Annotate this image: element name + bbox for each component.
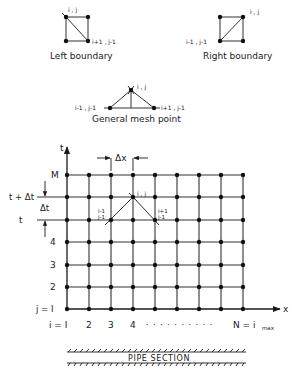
- mesh-right-label: i+1 , j-1: [161, 104, 185, 112]
- row-label-M: M: [51, 170, 59, 180]
- col-label-3: 3: [108, 320, 114, 330]
- col-label-i1: i = I: [49, 320, 67, 330]
- characteristics-mesh-diagram: i , j i+1 , j-1 Left boundary i , j i-1 …: [0, 0, 298, 379]
- grid-point-ij-label: i , j: [137, 190, 146, 198]
- grid-point-left-label-b: j-1: [97, 214, 105, 221]
- left-boundary-caption: Left boundary: [50, 51, 113, 61]
- row-label-t-plus-dt: t + Δt: [9, 192, 35, 202]
- row-label-3: 3: [50, 260, 56, 270]
- general-mesh-nodes: [108, 88, 156, 110]
- delta-x-label: Δx: [115, 153, 127, 163]
- col-label-N: N = i: [233, 320, 256, 330]
- t-axis-label: t: [60, 143, 64, 153]
- col-label-dots: · · · · · · · · · ·: [146, 321, 213, 330]
- row-label-4: 4: [50, 237, 56, 247]
- grid-point-right-label-b: j-1: [157, 214, 165, 221]
- general-mesh-caption: General mesh point: [92, 114, 181, 124]
- row-label-j1: j = I: [35, 304, 53, 314]
- mesh-left-label: i-1 , j-1: [75, 104, 96, 112]
- row-label-2: 2: [50, 282, 56, 292]
- right-node-ij-label: i , j: [250, 8, 259, 16]
- x-axis-label: x: [283, 304, 289, 314]
- right-boundary-caption: Right boundary: [203, 51, 273, 61]
- mesh-apex-label: i , j: [137, 83, 146, 91]
- delta-t-label: Δt: [40, 203, 50, 213]
- col-label-N-subscript: max: [262, 325, 275, 331]
- col-label-4: 4: [130, 320, 136, 330]
- pipe-section-label: PIPE SECTION: [128, 354, 190, 363]
- left-node-br-label: i+1 , j-1: [92, 38, 116, 46]
- right-boundary-stencil: [220, 17, 243, 41]
- row-label-t: t: [19, 215, 23, 225]
- left-node-ij-label: i , j: [68, 6, 77, 14]
- right-node-bl-label: i-1 , j-1: [186, 38, 207, 46]
- col-label-2: 2: [86, 320, 92, 330]
